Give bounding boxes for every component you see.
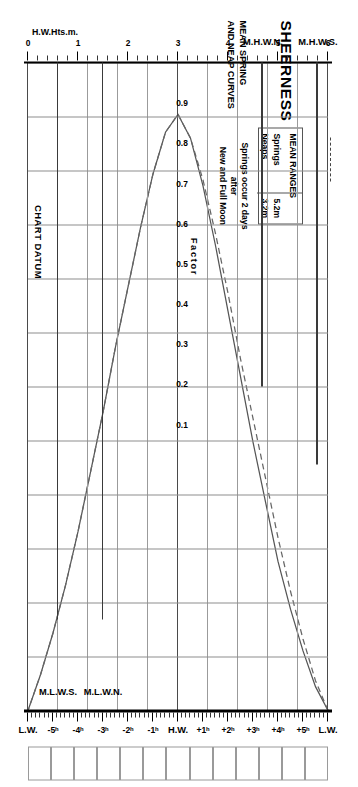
- chart-datum-label: CHART DATUM: [33, 205, 44, 279]
- time-minor-tick-11-4: [35, 712, 36, 717]
- time-tick-label-11: -5ʰ: [48, 724, 59, 734]
- time-minor-tick-7-3: [140, 712, 141, 717]
- tide-time-entry-box-6[interactable]: [166, 746, 189, 780]
- time-major-tick-10: [77, 712, 79, 721]
- time-tick-label-4: +2ʰ: [222, 724, 235, 734]
- factor-tick-label-5: 0.4: [176, 298, 188, 308]
- hw-height-major-tick-1: [77, 51, 79, 60]
- legend-neap-line-sample: [330, 137, 331, 181]
- time-minor-tick-8-3: [115, 712, 116, 717]
- time-tick-label-1: +5ʰ: [297, 724, 310, 734]
- springs-note: Springs occur 2 days after New and Full …: [217, 142, 250, 229]
- diagram-stage: SHEERNESS MEAN SPRING AND NEAP CURVES ME…: [0, 0, 358, 787]
- note-line-3: New and Full Moon: [217, 142, 228, 229]
- time-minor-tick-11-1: [48, 712, 49, 717]
- time-gridline-v-5: [28, 332, 328, 333]
- time-minor-tick-1-2: [294, 712, 295, 717]
- hw-height-minor-tick-1-4: [117, 55, 118, 60]
- time-minor-tick-0-1: [323, 712, 324, 717]
- time-minor-tick-6-2: [169, 712, 170, 717]
- time-gridline-v-4: [28, 278, 328, 279]
- time-minor-tick-11-5: [31, 712, 32, 717]
- hw-height-minor-tick-4-3: [257, 55, 258, 60]
- time-minor-tick-1-3: [290, 712, 291, 717]
- time-minor-tick-8-1: [123, 712, 124, 717]
- hw-height-minor-tick-5-3: [307, 55, 308, 60]
- time-minor-tick-9-5: [81, 712, 82, 717]
- hw-height-minor-tick-1-2: [97, 55, 98, 60]
- mhwn-label: M.H.W.N.: [243, 36, 283, 46]
- mlws-level-line: [57, 62, 58, 619]
- factor-axis-title: Factor: [189, 237, 200, 275]
- time-minor-tick-9-4: [85, 712, 86, 717]
- time-major-tick-5: [202, 712, 204, 721]
- time-major-tick-12: [27, 712, 29, 721]
- legend-springs-value: 5.2m: [272, 198, 282, 218]
- time-major-tick-2: [277, 712, 279, 721]
- factor-tick-label-2: 0.7: [176, 178, 188, 188]
- time-minor-tick-8-2: [119, 712, 120, 717]
- time-major-tick-9: [102, 712, 104, 721]
- factor-tick-label-7: 0.2: [176, 378, 188, 388]
- hw-height-label-4: 4: [226, 37, 231, 47]
- tide-time-entry-box-10[interactable]: [74, 746, 97, 780]
- time-major-tick-0: [327, 712, 329, 721]
- mlws-label: M.L.W.S.: [39, 686, 77, 696]
- time-tick-label-7: -1ʰ: [148, 724, 159, 734]
- time-minor-tick-6-1: [173, 712, 174, 717]
- time-minor-tick-4-1: [223, 712, 224, 717]
- time-minor-tick-7-1: [148, 712, 149, 717]
- mhwn-level-line: [261, 62, 263, 386]
- time-minor-tick-4-4: [210, 712, 211, 717]
- time-minor-tick-2-2: [269, 712, 270, 717]
- time-gridline-v-1: [28, 116, 328, 117]
- time-minor-tick-9-2: [94, 712, 95, 717]
- tide-time-entry-box-9[interactable]: [97, 746, 120, 780]
- time-tick-label-6: H.W.: [168, 724, 188, 734]
- hw-height-major-tick-5: [277, 51, 279, 60]
- time-tick-label-10: -4ʰ: [73, 724, 84, 734]
- time-minor-tick-6-3: [165, 712, 166, 717]
- hw-height-minor-tick-1-3: [107, 55, 108, 60]
- time-minor-tick-11-2: [44, 712, 45, 717]
- hw-height-minor-tick-3-1: [187, 55, 188, 60]
- time-tick-label-0: L.W.: [318, 724, 337, 734]
- tide-time-entry-box-2[interactable]: [259, 746, 282, 780]
- hw-height-minor-tick-5-4: [317, 55, 318, 60]
- hw-height-minor-tick-5-2: [297, 55, 298, 60]
- time-minor-tick-5-2: [194, 712, 195, 717]
- hw-height-minor-tick-3-4: [217, 55, 218, 60]
- tide-time-entry-box-11[interactable]: [51, 746, 74, 780]
- time-minor-tick-0-5: [306, 712, 307, 717]
- tide-time-entry-box-12[interactable]: [28, 746, 51, 780]
- time-minor-tick-7-2: [144, 712, 145, 717]
- hw-height-minor-tick-5-1: [287, 55, 288, 60]
- legend-springs-label: Springs: [272, 133, 282, 165]
- subtitle-line-1: MEAN SPRING: [237, 20, 249, 109]
- time-gridline-v-10: [28, 602, 328, 603]
- tide-time-entry-box-7[interactable]: [143, 746, 166, 780]
- time-minor-tick-0-2: [319, 712, 320, 717]
- tide-time-entry-box-0[interactable]: [305, 746, 328, 780]
- factor-tick-label-4: 0.5: [176, 258, 188, 268]
- time-minor-tick-3-3: [240, 712, 241, 717]
- time-minor-tick-1-4: [285, 712, 286, 717]
- tide-time-entry-box-4[interactable]: [213, 746, 236, 780]
- time-minor-tick-2-4: [260, 712, 261, 717]
- hw-height-label-1: 1: [76, 37, 81, 47]
- time-major-tick-4: [227, 712, 229, 721]
- tide-time-entry-box-8[interactable]: [120, 746, 143, 780]
- time-minor-tick-10-2: [69, 712, 70, 717]
- time-minor-tick-7-4: [135, 712, 136, 717]
- hw-height-minor-tick-1-1: [87, 55, 88, 60]
- tide-time-entry-box-5[interactable]: [190, 746, 213, 780]
- hw-height-minor-tick-0-2: [47, 55, 48, 60]
- time-minor-tick-10-5: [56, 712, 57, 717]
- tide-time-entry-box-3[interactable]: [236, 746, 259, 780]
- time-minor-tick-3-2: [244, 712, 245, 717]
- hw-height-major-tick-3: [177, 51, 179, 60]
- tide-time-entry-box-1[interactable]: [282, 746, 305, 780]
- time-gridline-v-8: [28, 494, 328, 495]
- subtitle-line-2: AND NEAP CURVES: [225, 20, 237, 109]
- time-minor-tick-11-3: [40, 712, 41, 717]
